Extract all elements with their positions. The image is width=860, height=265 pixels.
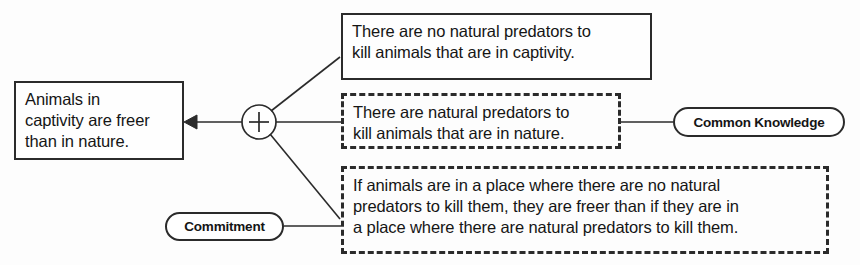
conclusion-box[interactable]: Animals in captivity are freer than in n… — [14, 81, 184, 160]
premise-3-line-1: If animals are in a place where there ar… — [353, 175, 817, 196]
premise-3-line-3: a place where there are natural predator… — [353, 217, 817, 238]
conclusion-line-2: captivity are freer — [25, 110, 173, 131]
premise-3-line-2: predators to kill them, they are freer t… — [353, 196, 817, 217]
annotation-oval-commitment[interactable]: Commitment — [165, 212, 284, 241]
premise-box-2[interactable]: There are natural predators to kill anim… — [341, 93, 621, 149]
premise-1-line-1: There are no natural predators to — [352, 21, 641, 42]
premise-2-line-1: There are natural predators to — [353, 102, 609, 123]
premise-2-line-2: kill animals that are in nature. — [353, 123, 609, 144]
edge-node-to-conclusion — [184, 115, 242, 129]
premise-box-3[interactable]: If animals are in a place where there ar… — [341, 166, 829, 254]
edge-premise-3-to-node — [270, 134, 340, 219]
premise-1-line-2: kill animals that are in captivity. — [352, 42, 641, 63]
edge-premise-1-to-node — [271, 57, 340, 111]
annotation-label-commitment: Commitment — [184, 219, 265, 234]
annotation-oval-common-knowledge[interactable]: Common Knowledge — [673, 107, 845, 137]
conclusion-line-1: Animals in — [25, 89, 173, 110]
premise-box-1[interactable]: There are no natural predators to kill a… — [341, 13, 652, 80]
annotation-label-common-knowledge: Common Knowledge — [693, 115, 824, 130]
conclusion-line-3: than in nature. — [25, 131, 173, 152]
argument-diagram: Animals in captivity are freer than in n… — [0, 0, 860, 265]
